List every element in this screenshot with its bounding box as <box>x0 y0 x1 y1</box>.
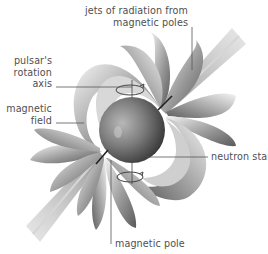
label-jets-of-radiation: jets of radiation from magnetic poles <box>85 5 188 28</box>
label-magnetic-pole-text: magnetic pole <box>115 238 185 250</box>
label-rotation-axis: pulsar's rotation axis <box>14 55 52 90</box>
label-field-line2: field <box>6 115 52 127</box>
label-neutron-star-text: neutron star <box>211 151 268 163</box>
label-rotation-line3: axis <box>14 78 52 90</box>
label-magnetic-pole: magnetic pole <box>115 238 185 250</box>
pulsar-illustration <box>0 0 268 254</box>
label-jets-line2: magnetic poles <box>85 17 188 29</box>
neutron-star-sphere <box>99 97 165 163</box>
label-magnetic-field: magnetic field <box>6 103 52 126</box>
label-neutron-star: neutron star <box>211 151 268 163</box>
label-rotation-line2: rotation <box>14 67 52 79</box>
label-rotation-line1: pulsar's <box>14 55 52 67</box>
label-field-line1: magnetic <box>6 103 52 115</box>
pulsar-diagram: jets of radiation from magnetic poles pu… <box>0 0 268 254</box>
label-jets-line1: jets of radiation from <box>85 5 188 17</box>
